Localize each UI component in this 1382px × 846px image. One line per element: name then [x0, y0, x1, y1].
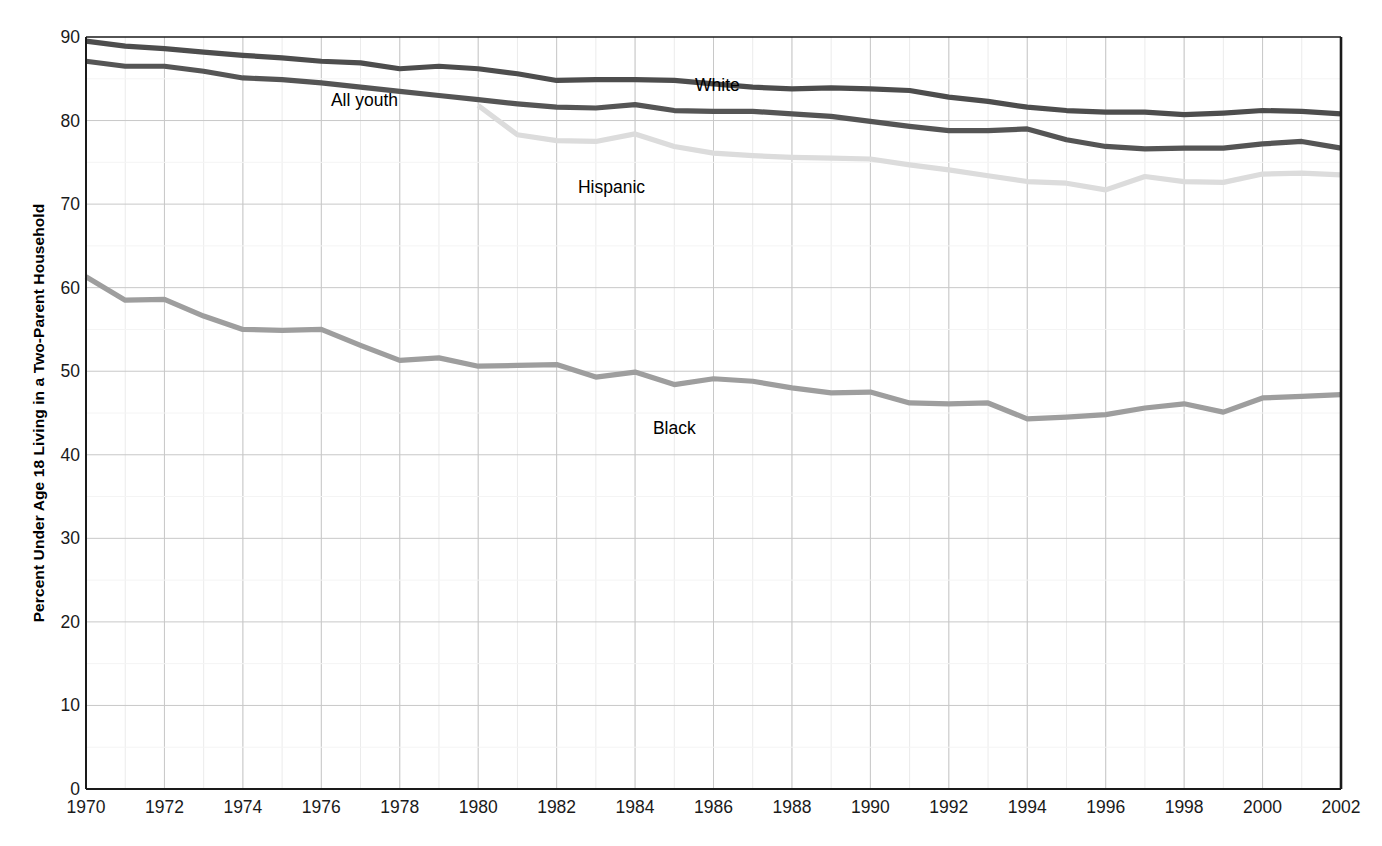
series-label-all-youth: All youth — [331, 89, 398, 110]
series-label-black: Black — [653, 418, 696, 439]
series-label-white: White — [695, 74, 740, 95]
chart-container: Percent Under Age 18 Living in a Two-Par… — [0, 0, 1382, 846]
series-label-hispanic: Hispanic — [578, 177, 645, 198]
